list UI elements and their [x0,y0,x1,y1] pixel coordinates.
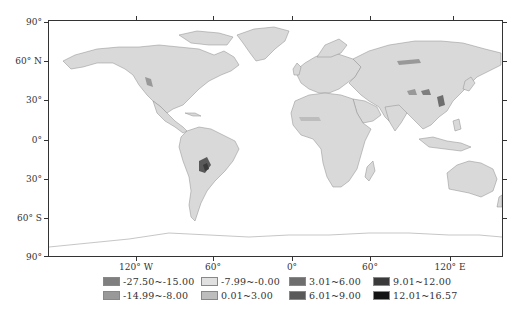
top-tick [370,16,371,20]
lon-label-120e: 120° E [434,262,465,272]
legend-label: 3.01~6.00 [309,276,361,287]
europe [295,51,361,93]
lat-tick [44,140,48,141]
arctic-islands [179,31,233,45]
legend-item: 3.01~6.00 [289,276,361,287]
lat-label-0: 0° [0,135,42,145]
indonesia [419,137,471,151]
lat-tick [44,61,48,62]
legend-item: 12.01~16.57 [373,290,458,301]
madagascar [365,161,375,181]
caribbean [185,113,201,116]
legend-item: -27.50~-15.00 [103,276,194,287]
legend-swatch [289,291,306,300]
lon-label-120w: 120° W [119,262,153,272]
right-tick [503,100,507,101]
lon-tick [213,257,214,261]
legend-item: -14.99~-8.00 [103,290,188,301]
lat-tick [44,179,48,180]
lat-tick [44,22,48,23]
legend-label: 0.01~3.00 [221,290,273,301]
legend-item: 9.01~12.00 [373,276,451,287]
new-zealand [497,195,502,207]
lat-label-60n: 60° N [0,56,42,66]
right-tick [503,61,507,62]
lon-label-60w: 60° [205,262,221,272]
lon-tick [292,257,293,261]
lat-label-60s: 60° S [0,213,42,223]
right-tick [503,218,507,219]
greenland [237,27,289,61]
legend-item: 6.01~9.00 [289,290,361,301]
top-tick [213,16,214,20]
lat-label-30s: 30° [0,174,42,184]
lat-label-90s: 90° [0,252,42,262]
world-map [48,20,503,257]
legend-swatch [201,291,218,300]
lat-tick [44,100,48,101]
top-tick [292,16,293,20]
lon-tick [136,257,137,261]
lat-tick [44,218,48,219]
lon-tick [370,257,371,261]
legend-swatch [103,277,120,286]
top-tick [136,16,137,20]
legend-swatch [103,291,120,300]
legend-label: -14.99~-8.00 [123,290,188,301]
legend-swatch [201,277,218,286]
world-map-graphic [49,21,502,256]
lon-tick [450,257,451,261]
legend-swatch [289,277,306,286]
legend-label: 6.01~9.00 [309,290,361,301]
top-tick [453,16,454,20]
lon-label-60e: 60° [362,262,378,272]
legend-item: -7.99~-0.00 [201,276,280,287]
legend-label: 9.01~12.00 [393,276,451,287]
legend-swatch [373,277,390,286]
lat-label-30n: 30° [0,95,42,105]
lon-label-0: 0° [287,262,297,272]
scandinavia [317,39,347,57]
right-tick [503,140,507,141]
south-america [179,127,239,221]
legend-label: 12.01~16.57 [393,290,458,301]
antarctica [49,233,502,247]
legend-label: -7.99~-0.00 [221,276,280,287]
australia [447,161,497,197]
legend-item: 0.01~3.00 [201,290,273,301]
lat-label-90n: 90° [0,17,42,27]
right-tick [503,179,507,180]
lat-tick [44,256,48,257]
right-tick [503,22,507,23]
philippines [453,119,461,131]
legend-label: -27.50~-15.00 [123,276,194,287]
legend-swatch [373,291,390,300]
legend: -27.50~-15.00 -14.99~-8.00 -7.99~-0.00 0… [103,276,523,306]
